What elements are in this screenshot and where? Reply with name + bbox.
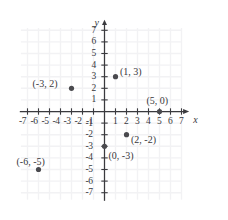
point-label-2: (5, 0) (147, 96, 169, 106)
y-tick-label-2: 2 (92, 84, 96, 94)
x-axis-label: x (193, 115, 197, 125)
coordinate-plane-figure: -7-6-5-4-3-2-112345677654321-1-2-3-4-5-6… (0, 0, 228, 220)
point-label-4: (0, -3) (109, 151, 134, 161)
y-tick-label-neg2: -2 (86, 130, 93, 140)
point-label-5: (-6, -5) (17, 157, 45, 167)
point-label-3: (2, -2) (131, 135, 156, 145)
x-tick-label-neg4: -4 (53, 117, 60, 127)
x-tick-label-neg2: -2 (75, 117, 82, 127)
y-tick-label-6: 6 (92, 37, 96, 47)
point-label-1: (-3, 2) (33, 79, 58, 89)
x-tick-label-neg3: -3 (64, 117, 71, 127)
x-tick-label-4: 4 (146, 117, 150, 127)
y-tick-label-neg4: -4 (86, 153, 93, 163)
x-tick-label-neg7: -7 (19, 117, 26, 127)
y-tick-label-1: 1 (92, 95, 96, 105)
y-axis-label: y (95, 18, 99, 28)
x-tick-label-1: 1 (113, 117, 117, 127)
y-tick-label-neg5: -5 (86, 165, 93, 175)
y-tick-label-neg6: -6 (86, 177, 93, 187)
x-tick-label-neg5: -5 (42, 117, 49, 127)
axes (20, 20, 189, 201)
x-tick-label-neg6: -6 (31, 117, 38, 127)
y-tick-label-5: 5 (92, 49, 96, 59)
y-tick-label-neg1: -1 (86, 119, 93, 129)
x-tick-label-3: 3 (135, 117, 139, 127)
y-tick-label-neg3: -3 (86, 142, 93, 152)
x-tick-label-2: 2 (124, 117, 128, 127)
y-tick-label-4: 4 (92, 61, 96, 71)
scatter-plot-svg (0, 0, 228, 220)
y-tick-label-neg7: -7 (86, 188, 93, 198)
point-label-0: (1, 3) (120, 67, 142, 77)
grid-lines (21, 28, 182, 200)
y-tick-label-3: 3 (92, 72, 96, 82)
x-tick-label-5: 5 (157, 117, 161, 127)
x-tick-label-7: 7 (179, 117, 183, 127)
x-tick-label-6: 6 (168, 117, 172, 127)
